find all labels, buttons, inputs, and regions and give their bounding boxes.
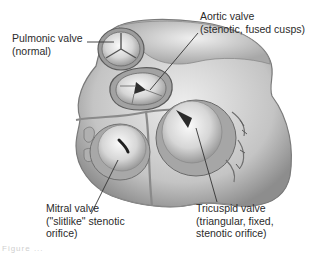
aortic-valve: [110, 68, 172, 110]
pulmonic-valve-label: Pulmonic valve (normal): [12, 32, 83, 57]
figure-caption-fragment: Figure ...: [2, 244, 44, 253]
tricuspid-valve-label: Tricuspid valve (triangular, fixed, sten…: [196, 202, 274, 240]
mitral-valve: [90, 124, 150, 180]
mitral-valve-label: Mitral valve ("slitlike" stenotic orific…: [46, 202, 125, 240]
aortic-valve-label: Aortic valve (stenotic, fused cusps): [200, 10, 305, 35]
pulmonic-valve: [98, 28, 144, 70]
